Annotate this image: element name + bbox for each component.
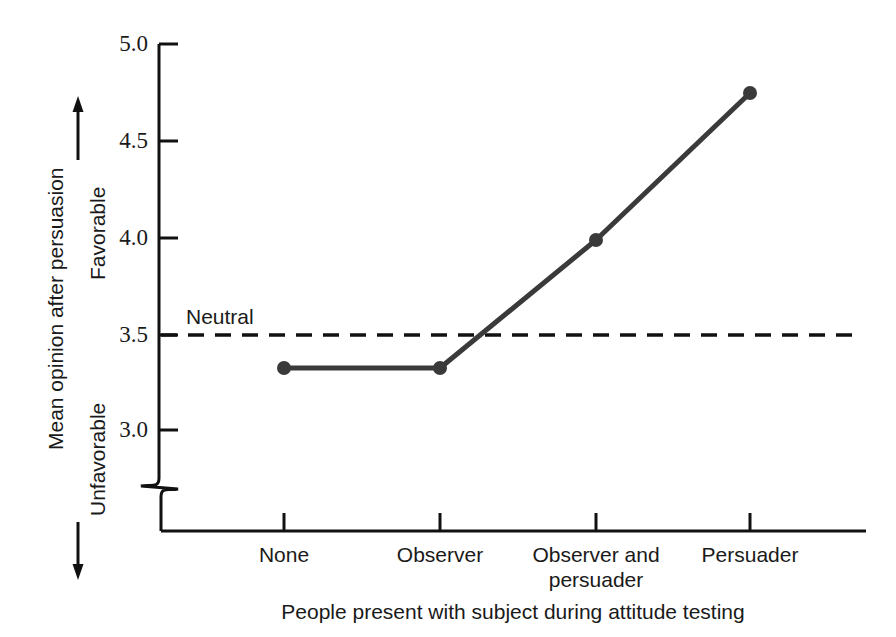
y-tick-label-3-5: 3.5 [88, 322, 148, 348]
neutral-line-label: Neutral [186, 305, 254, 329]
x-tick-label-observer-and-persuader-line2: persuader [496, 568, 696, 592]
line-chart-canvas [0, 0, 896, 637]
data-series-line [284, 93, 750, 368]
down-arrow-icon [73, 522, 84, 580]
data-point-marker [589, 233, 603, 247]
data-point-marker [277, 361, 291, 375]
unfavorable-label: Unfavorable [86, 403, 110, 516]
data-point-marker [433, 361, 447, 375]
chart-figure: 5.0 4.5 4.0 3.5 3.0 Neutral None Observe… [0, 0, 896, 637]
x-axis-title: People present with subject during attit… [133, 600, 893, 624]
y-tick-label-4-5: 4.5 [88, 128, 148, 154]
x-tick-label-persuader: Persuader [650, 543, 850, 567]
y-tick-label-5-0: 5.0 [88, 31, 148, 57]
data-point-marker [743, 86, 757, 100]
up-arrow-icon [73, 96, 84, 160]
y-axis-title: Mean opinion after persuasion [44, 167, 68, 450]
favorable-label: Favorable [86, 187, 110, 280]
y-axis-break-symbol [141, 478, 178, 497]
